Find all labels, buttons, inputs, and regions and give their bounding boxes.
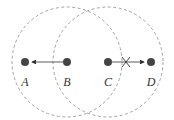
node-A — [21, 58, 29, 66]
node-label-C: C — [104, 76, 112, 88]
node-label-B: B — [63, 76, 70, 88]
node-C — [104, 58, 112, 66]
node-label-A: A — [21, 76, 28, 88]
node-B — [63, 58, 71, 66]
node-label-D: D — [147, 76, 156, 88]
exposed-terminal-diagram — [0, 0, 174, 120]
node-D — [147, 58, 155, 66]
